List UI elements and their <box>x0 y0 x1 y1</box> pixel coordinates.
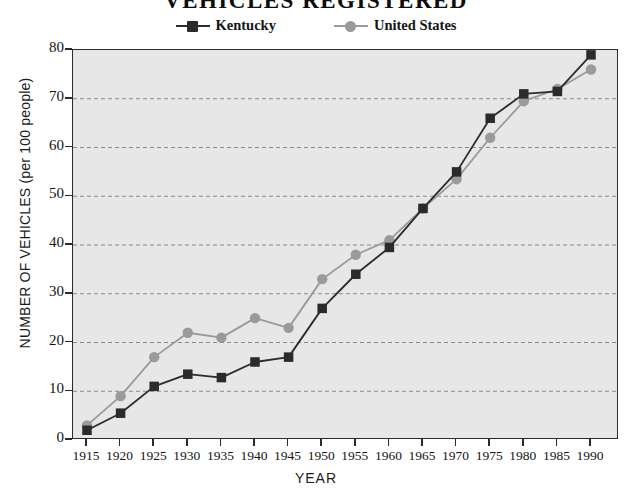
y-tick-label: 30 <box>20 283 64 300</box>
data-point[interactable] <box>351 250 361 260</box>
series-line-united-states <box>87 70 591 426</box>
data-point[interactable] <box>418 204 428 214</box>
x-tick-mark <box>287 439 289 446</box>
x-tick-mark <box>556 439 558 446</box>
chart-legend: Kentucky United States <box>0 17 632 34</box>
y-tick-mark <box>65 292 72 294</box>
data-point[interactable] <box>452 167 462 177</box>
data-point[interactable] <box>317 304 327 314</box>
legend-marker-circle-icon <box>334 20 368 32</box>
data-point[interactable] <box>485 133 495 143</box>
x-tick-mark <box>455 439 457 446</box>
data-point[interactable] <box>553 87 563 97</box>
legend-marker-square-icon <box>176 20 210 32</box>
data-point[interactable] <box>317 274 327 284</box>
data-point[interactable] <box>217 373 227 383</box>
y-tick-mark <box>65 438 72 440</box>
y-axis-title: NUMBER OF VEHICLES (per 100 people) <box>17 13 33 413</box>
data-point[interactable] <box>519 89 529 99</box>
data-point[interactable] <box>216 332 226 342</box>
y-tick-mark <box>65 243 72 245</box>
y-tick-label: 60 <box>20 137 64 154</box>
legend-label-united-states: United States <box>374 17 457 34</box>
x-tick-mark <box>253 439 255 446</box>
y-tick-label: 40 <box>20 234 64 251</box>
y-tick-label: 50 <box>20 185 64 202</box>
y-tick-label: 80 <box>20 39 64 56</box>
data-point[interactable] <box>351 270 361 280</box>
x-tick-mark <box>186 439 188 446</box>
data-point[interactable] <box>149 352 159 362</box>
chart-title: VEHICLES REGISTERED <box>0 0 632 14</box>
data-point[interactable] <box>283 323 293 333</box>
legend-item-kentucky[interactable]: Kentucky <box>176 17 276 34</box>
data-point[interactable] <box>149 382 159 392</box>
y-tick-label: 70 <box>20 88 64 105</box>
x-tick-mark <box>119 439 121 446</box>
y-tick-label: 10 <box>20 380 64 397</box>
y-tick-label: 0 <box>20 429 64 446</box>
y-tick-mark <box>65 146 72 148</box>
data-point[interactable] <box>485 114 495 124</box>
plot-area <box>72 49 618 439</box>
legend-item-united-states[interactable]: United States <box>334 17 457 34</box>
data-point[interactable] <box>586 50 596 60</box>
data-point[interactable] <box>385 243 395 253</box>
x-tick-mark <box>85 439 87 446</box>
data-point[interactable] <box>183 328 193 338</box>
x-tick-mark <box>354 439 356 446</box>
chart-root: VEHICLES REGISTERED Kentucky United Stat… <box>0 0 632 496</box>
y-tick-mark <box>65 341 72 343</box>
x-tick-mark <box>488 439 490 446</box>
y-tick-mark <box>65 195 72 197</box>
y-tick-mark <box>65 97 72 99</box>
x-tick-mark <box>388 439 390 446</box>
y-tick-mark <box>65 48 72 50</box>
data-point[interactable] <box>250 357 260 367</box>
legend-label-kentucky: Kentucky <box>216 17 276 34</box>
x-tick-mark <box>589 439 591 446</box>
plot-svg <box>73 50 619 440</box>
x-tick-mark <box>522 439 524 446</box>
x-tick-mark <box>220 439 222 446</box>
x-tick-label: 1990 <box>568 448 612 464</box>
data-point[interactable] <box>183 369 193 379</box>
x-tick-mark <box>152 439 154 446</box>
data-point[interactable] <box>115 391 125 401</box>
data-point[interactable] <box>284 352 294 362</box>
y-tick-mark <box>65 390 72 392</box>
x-axis-title: YEAR <box>0 470 632 486</box>
data-point[interactable] <box>250 313 260 323</box>
data-point[interactable] <box>586 64 596 74</box>
x-tick-mark <box>320 439 322 446</box>
y-tick-label: 20 <box>20 332 64 349</box>
data-point[interactable] <box>82 426 92 436</box>
data-point[interactable] <box>116 408 126 418</box>
x-tick-mark <box>421 439 423 446</box>
